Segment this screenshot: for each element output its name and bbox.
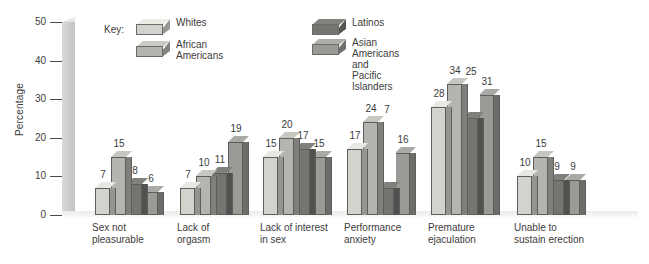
bar-value-label: 7: [168, 170, 208, 180]
bar-value-label: 19: [216, 124, 256, 134]
y-axis-tick-mark: [50, 176, 62, 177]
bar-value-label: 31: [467, 77, 507, 87]
bar-value-label: 11: [200, 155, 240, 165]
bar-value-label: 7: [367, 105, 407, 115]
plot-area: 7158671011191520171517247162834253110159…: [75, 17, 638, 215]
y-axis-tick-label: 40: [12, 56, 46, 66]
y-axis-tick-mark: [50, 99, 62, 100]
bar-value-label: 9: [553, 162, 593, 172]
value-leader-line: [395, 116, 396, 182]
y-axis-tick-mark: [50, 138, 62, 139]
y-axis-tick-mark: [50, 61, 62, 62]
bar-chart: Percentage 50403020100 Key: WhitesAfrica…: [0, 0, 649, 264]
x-axis-label-1: Lack of orgasm: [177, 222, 210, 246]
y-axis-tick-mark: [50, 215, 62, 216]
x-axis-label-3: Performance anxiety: [344, 222, 401, 246]
bar-value-label: 16: [383, 135, 423, 145]
x-axis-label-0: Sex not pleasurable: [92, 222, 144, 246]
bar-value-label: 6: [131, 174, 171, 184]
bar-value-label: 15: [521, 139, 561, 149]
bar-value-labels: 7158671011191520171517247162834253110159…: [75, 17, 638, 215]
bar-value-label: 28: [419, 89, 459, 99]
bar-value-label: 17: [335, 131, 375, 141]
y-axis-tick-label: 10: [12, 171, 46, 181]
y-axis-tick-label: 50: [12, 17, 46, 27]
y-axis-tick-label: 30: [12, 94, 46, 104]
y-axis-tick-label: 0: [12, 210, 46, 220]
x-axis-label-5: Unable to sustain erection: [514, 222, 584, 246]
bar-value-label: 15: [299, 139, 339, 149]
y-axis-tick-label: 20: [12, 133, 46, 143]
bar-value-label: 20: [267, 120, 307, 130]
x-axis-label-2: Lack of interest in sex: [260, 222, 328, 246]
y-axis-wall: [62, 22, 75, 215]
y-axis-wall-top-face: [62, 17, 75, 22]
x-axis-label-4: Premature ejaculation: [428, 222, 476, 246]
y-axis-tick-mark: [50, 22, 62, 23]
bar-value-label: 15: [99, 139, 139, 149]
